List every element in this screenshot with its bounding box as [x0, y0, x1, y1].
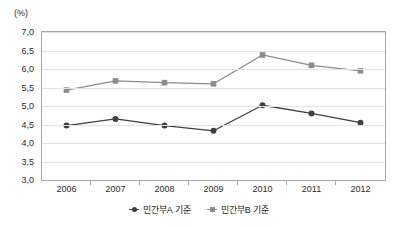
y-axis-tick-label: 6,5 — [0, 46, 34, 56]
legend-marker-glyph — [210, 207, 215, 212]
gridline — [42, 69, 385, 70]
chart-legend: 민간부A 기준민간부B 기준 — [0, 203, 398, 216]
gridline — [42, 143, 385, 144]
x-axis-tick-label: 2012 — [350, 184, 370, 194]
x-axis-tick-label: 2010 — [252, 184, 272, 194]
legend-item-b[interactable]: 민간부B 기준 — [207, 203, 270, 216]
plot-area — [41, 31, 386, 181]
data-point — [309, 110, 315, 116]
data-point — [162, 123, 168, 129]
x-axis-tick-label: 2007 — [105, 184, 125, 194]
legend-circle-icon — [129, 205, 139, 214]
gridline — [42, 125, 385, 126]
y-axis-tick-label: 4,0 — [0, 138, 34, 148]
gridline — [42, 51, 385, 52]
y-axis-tick-label: 3,5 — [0, 157, 34, 167]
x-axis-tick-label: 2011 — [302, 184, 321, 194]
gridline — [42, 88, 385, 89]
x-axis-tick-labels: 2006200720082009201020112012 — [41, 184, 386, 200]
legend-marker-glyph — [132, 207, 137, 212]
y-axis-tick-label: 6,0 — [0, 64, 34, 74]
y-axis-tick-label: 5,0 — [0, 101, 34, 111]
data-point — [113, 78, 119, 84]
legend-label: 민간부A 기준 — [143, 203, 191, 216]
y-axis-tick-label: 7,0 — [0, 27, 34, 37]
data-point — [113, 116, 119, 122]
gridline — [42, 32, 385, 33]
legend-square-icon — [207, 205, 217, 214]
y-axis-tick-labels: 7,06,56,05,55,04,54,03,53,0 — [0, 31, 38, 181]
gridline — [42, 106, 385, 107]
x-axis-tick-label: 2006 — [56, 184, 76, 194]
y-axis-tick-label: 3,0 — [0, 175, 34, 185]
x-axis-tick-label: 2008 — [154, 184, 174, 194]
data-point — [211, 81, 217, 87]
legend-item-a[interactable]: 민간부A 기준 — [129, 203, 191, 216]
data-point — [162, 80, 168, 86]
y-axis-tick-label: 5,5 — [0, 83, 34, 93]
data-point — [211, 128, 217, 134]
gridline — [42, 162, 385, 163]
data-point — [309, 63, 315, 69]
y-axis-tick-label: 4,5 — [0, 120, 34, 130]
data-point — [64, 123, 70, 129]
series-line — [67, 105, 361, 131]
data-point — [260, 52, 266, 58]
legend-label: 민간부B 기준 — [221, 203, 270, 216]
line-chart: (%) 7,06,56,05,55,04,54,03,53,0 20062007… — [0, 0, 398, 227]
x-axis-tick-label: 2009 — [203, 184, 223, 194]
y-axis-unit-label: (%) — [14, 8, 28, 18]
